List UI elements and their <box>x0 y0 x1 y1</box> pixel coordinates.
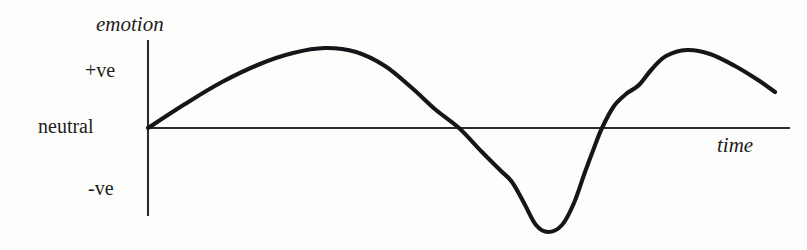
x-axis-title: time <box>717 135 753 156</box>
y-tick-label-negative: -ve <box>88 178 114 198</box>
emotion-curve-path <box>148 48 775 232</box>
y-tick-label-positive: +ve <box>85 60 115 80</box>
y-axis-title: emotion <box>96 14 164 35</box>
axes-group <box>148 40 790 216</box>
diagram-canvas <box>0 0 807 250</box>
y-tick-label-neutral: neutral <box>38 116 94 136</box>
series-group <box>148 48 775 232</box>
emotion-time-diagram: emotion time +ve neutral -ve <box>0 0 807 250</box>
